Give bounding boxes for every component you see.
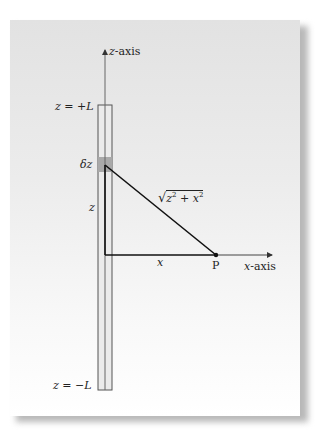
x-axis-label: x-axis xyxy=(244,261,276,272)
z-axis-label: z-axis xyxy=(109,46,140,57)
z-length-label: z xyxy=(89,202,95,213)
hypotenuse-line xyxy=(105,165,216,255)
z-top-label: z = +L xyxy=(55,101,94,112)
z-bottom-label: z = −L xyxy=(53,380,92,391)
delta-z-label: δz xyxy=(80,159,92,170)
point-p-dot xyxy=(214,253,218,257)
z-axis-label-suffix: -axis xyxy=(115,45,141,58)
plus-sign: + xyxy=(177,192,193,205)
x-length-label: x xyxy=(157,257,163,268)
line-charge-diagram xyxy=(0,0,323,432)
point-p-label: P xyxy=(212,260,219,271)
hypotenuse-label: √z2 + x2 xyxy=(158,191,203,204)
x-axis-label-suffix: -axis xyxy=(250,260,276,273)
exponent-x: 2 xyxy=(199,191,203,199)
sqrt-radicand: z2 + x2 xyxy=(166,190,203,205)
